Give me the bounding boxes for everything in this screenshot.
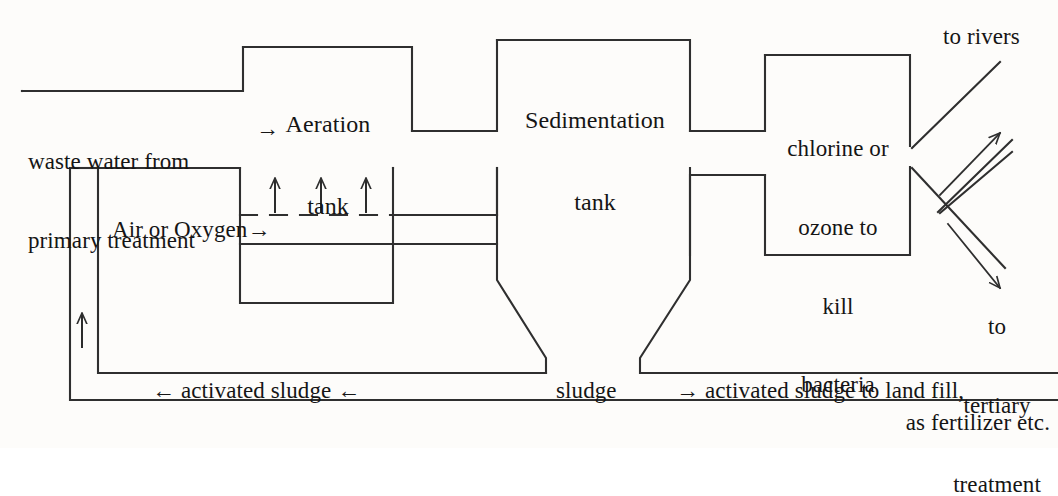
sedimentation-tank-label-line1: Sedimentation bbox=[505, 107, 685, 134]
return-activated-sludge-label: ← activated sludge ← bbox=[152, 378, 360, 404]
to-rivers-channel-lower-wall bbox=[938, 140, 1012, 212]
to-rivers-flow-arrow bbox=[940, 133, 1000, 195]
to-rivers-channel-upper-wall bbox=[912, 62, 1000, 148]
inlet-label-line1: waste water from bbox=[28, 149, 195, 175]
chlorine-ozone-label-line1: chlorine or bbox=[767, 136, 909, 162]
chlorine-inlet-lower-wall bbox=[690, 175, 765, 255]
chlorine-ozone-label-line3: kill bbox=[767, 294, 909, 320]
to-rivers-label: to rivers bbox=[943, 24, 1020, 50]
to-tertiary-channel-upper-wall bbox=[940, 152, 1012, 213]
sludge-label: sludge bbox=[556, 378, 617, 404]
aeration-tank-label-line1: Aeration bbox=[250, 111, 406, 138]
to-tertiary-label-line1: to bbox=[938, 314, 1056, 340]
aeration-tank-label-line2: tank bbox=[250, 193, 406, 220]
inlet-label: waste water from primary treatment bbox=[28, 97, 195, 307]
inlet-channel-top-wall bbox=[22, 47, 243, 91]
to-tertiary-label-line3: treatment bbox=[938, 472, 1056, 496]
sedimentation-tank-label: Sedimentation tank bbox=[505, 52, 685, 271]
chlorine-ozone-label-line2: ozone to bbox=[767, 215, 909, 241]
sludge-to-landfill-label-line2: as fertilizer etc. bbox=[700, 410, 1050, 436]
sedimentation-to-chlorine-upper-wall bbox=[690, 55, 765, 131]
sedimentation-tank-label-line2: tank bbox=[505, 189, 685, 216]
aeration-tank-label: Aeration tank bbox=[250, 56, 406, 275]
aeration-to-sedimentation-upper-wall bbox=[412, 40, 497, 131]
sludge-to-landfill-label-line1: → activated sludge to land fill, bbox=[676, 378, 964, 404]
to-tertiary-channel-lower-wall bbox=[912, 168, 1005, 268]
air-oxygen-label: Air or Oxygen→ bbox=[112, 217, 271, 243]
